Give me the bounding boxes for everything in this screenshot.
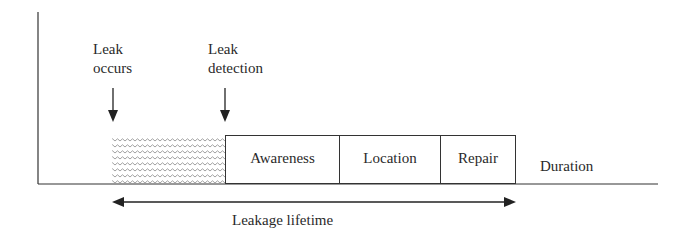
marker-label-line2: occurs [93, 59, 132, 78]
phase-location: Location [339, 135, 441, 184]
undetected-period-hatch [112, 135, 225, 184]
marker-label-line1: Leak [93, 40, 132, 59]
marker-label-line1: Leak [208, 40, 263, 59]
marker-leak-detection: Leak detection [208, 40, 263, 78]
phase-label: Repair [441, 150, 515, 167]
x-axis-label: Duration [540, 157, 593, 176]
marker-label-line2: detection [208, 59, 263, 78]
marker-leak-occurs: Leak occurs [93, 40, 132, 78]
phase-awareness: Awareness [225, 135, 340, 184]
leak-detection-arrow-icon [220, 88, 230, 122]
span-label: Leakage lifetime [232, 211, 333, 230]
diagram-canvas [0, 0, 689, 244]
phase-repair: Repair [440, 135, 516, 184]
phase-label: Awareness [226, 150, 339, 167]
leak-occurs-arrow-icon [108, 88, 118, 122]
leakage-lifetime-arrow-icon [112, 197, 516, 207]
phase-label: Location [340, 150, 440, 167]
